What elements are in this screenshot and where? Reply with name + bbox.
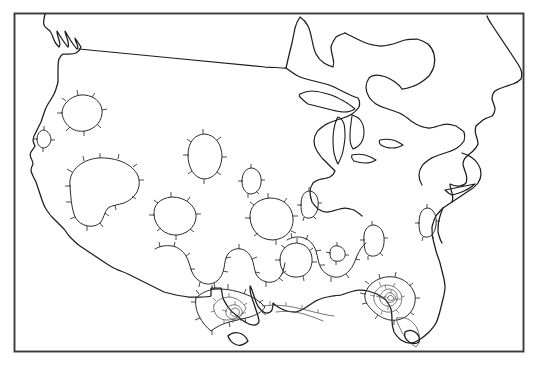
figure-background bbox=[0, 0, 536, 366]
map-canvas bbox=[0, 0, 536, 366]
contour-map-figure: Continental United States bbox=[0, 0, 536, 366]
